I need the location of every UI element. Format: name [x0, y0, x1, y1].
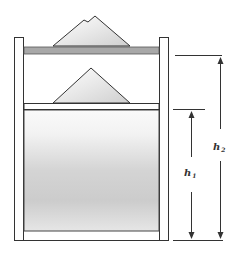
upper-piston-plate — [24, 47, 159, 54]
height-arrow-h2: h2 — [213, 57, 225, 239]
right-wall — [160, 38, 169, 241]
lower-piston-plate — [24, 104, 159, 110]
h1-label: h1 — [184, 167, 196, 179]
fluid-column — [24, 110, 159, 231]
arrow-down-icon — [189, 232, 195, 239]
arrow-down-icon — [218, 232, 224, 239]
h2-label: h2 — [213, 141, 225, 153]
upper-sand-pile — [53, 16, 130, 46]
piston-diagram: h1 h2 — [0, 0, 239, 253]
height-arrow-h1: h1 — [184, 111, 196, 239]
arrow-up-icon — [189, 111, 195, 118]
arrow-up-icon — [218, 57, 224, 64]
lower-sand-pile — [53, 68, 130, 103]
left-wall — [15, 38, 24, 241]
